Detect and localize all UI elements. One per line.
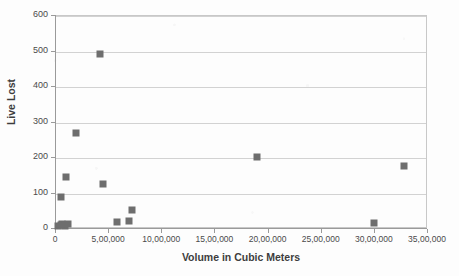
x-axis-tick: [161, 229, 162, 233]
data-point: [113, 218, 120, 225]
x-axis-tick: [321, 229, 322, 233]
y-axis-tick: [51, 51, 56, 52]
x-axis-title: Volume in Cubic Meters: [55, 251, 427, 263]
x-axis-tick: [374, 229, 375, 233]
x-axis-tick: [427, 229, 428, 233]
y-axis-tick-label: 600: [6, 10, 48, 19]
y-axis-title: Live Lost: [5, 67, 17, 137]
x-axis-tick: [268, 229, 269, 233]
data-point: [62, 174, 69, 181]
y-axis-tick-label: 0: [6, 223, 48, 232]
gridline: [56, 123, 426, 124]
gridline: [56, 158, 426, 159]
data-point: [96, 51, 103, 58]
data-point: [58, 193, 65, 200]
x-axis-tick: [214, 229, 215, 233]
data-point: [73, 129, 80, 136]
x-axis-tick-label: 0: [53, 235, 58, 244]
y-axis-tick-label: 500: [6, 46, 48, 55]
data-point: [253, 153, 260, 160]
plot-area: [55, 15, 427, 228]
y-axis-tick: [51, 122, 56, 123]
gridline: [56, 52, 426, 53]
x-axis-tick-label: 30,00,000: [355, 235, 393, 244]
x-axis-tick-label: 35,00,000: [408, 235, 446, 244]
x-axis-tick-label: 5,00,000: [92, 235, 125, 244]
y-axis-tick-label: 100: [6, 188, 48, 197]
data-point: [400, 162, 407, 169]
x-axis-tick: [108, 229, 109, 233]
gridline: [56, 194, 426, 195]
data-point: [99, 181, 106, 188]
data-point: [64, 221, 71, 228]
data-point: [370, 220, 377, 227]
data-point: [126, 217, 133, 224]
y-axis-tick-label: 200: [6, 152, 48, 161]
x-axis-tick-label: 25,00,000: [302, 235, 340, 244]
gridline: [56, 16, 426, 17]
x-axis-tick-label: 15,00,000: [196, 235, 234, 244]
scatter-chart: 0100200300400500600 05,00,00010,00,00015…: [0, 0, 459, 276]
x-axis-tick-label: 10,00,000: [142, 235, 180, 244]
y-axis-tick: [51, 86, 56, 87]
x-axis-line: [55, 228, 427, 229]
gridline: [56, 87, 426, 88]
data-point: [128, 207, 135, 214]
y-axis-tick: [51, 15, 56, 16]
y-axis-tick: [51, 193, 56, 194]
x-axis-tick-label: 20,00,000: [249, 235, 287, 244]
y-axis-tick: [51, 157, 56, 158]
